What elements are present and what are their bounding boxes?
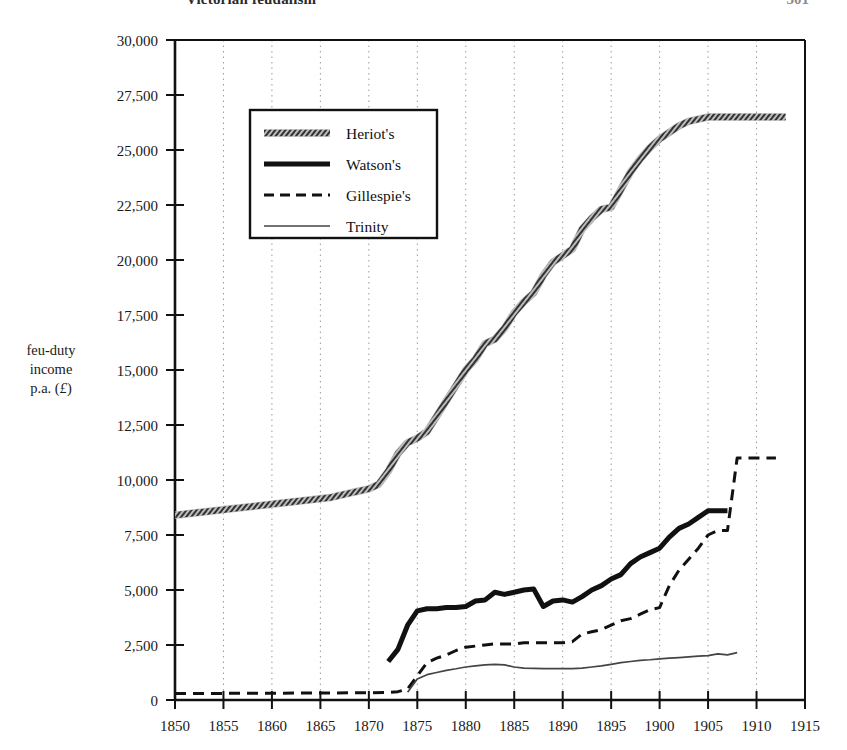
y-tick-label: 22,500 [117, 198, 158, 214]
x-tick-label: 1875 [402, 718, 432, 734]
x-tick-label: 1890 [548, 718, 578, 734]
y-tick-label: 27,500 [117, 88, 158, 104]
y-tick-label: 7,500 [124, 528, 158, 544]
x-tick-label: 1885 [499, 718, 529, 734]
y-tick-label: 2,500 [124, 638, 158, 654]
y-tick-label: 12,500 [117, 418, 158, 434]
legend-label-gillespies: Gillespie's [346, 187, 411, 204]
series-line-trinity [408, 653, 738, 693]
x-tick-label: 1865 [305, 718, 335, 734]
x-tick-label: 1900 [645, 718, 675, 734]
x-axis-ticks: 1850185518601865187018751880188518901895… [160, 691, 820, 734]
y-tick-label: 20,000 [117, 253, 158, 269]
legend-label-heriots: Heriot's [346, 125, 394, 142]
chart-legend: Heriot'sWatson'sGillespie'sTrinity [250, 110, 437, 238]
series-line-gillespies [175, 458, 776, 693]
x-tick-label: 1910 [742, 718, 772, 734]
legend-label-trinity: Trinity [346, 218, 389, 235]
x-tick-label: 1915 [790, 718, 820, 734]
y-tick-label: 10,000 [117, 473, 158, 489]
legend-label-watsons: Watson's [346, 156, 401, 173]
y-tick-label: 0 [151, 693, 159, 709]
x-tick-label: 1855 [208, 718, 238, 734]
y-tick-label: 5,000 [124, 583, 158, 599]
chart-figure: feu-duty income p.a. (£) 02,5005,0007,50… [0, 0, 847, 750]
chart-plot-area: 02,5005,0007,50010,00012,50015,00017,500… [0, 0, 847, 750]
y-tick-label: 30,000 [117, 33, 158, 49]
x-tick-label: 1895 [596, 718, 626, 734]
x-tick-label: 1905 [693, 718, 723, 734]
y-tick-label: 25,000 [117, 143, 158, 159]
x-tick-label: 1880 [451, 718, 481, 734]
series-line-watsons [388, 511, 727, 662]
y-tick-label: 17,500 [117, 308, 158, 324]
x-tick-label: 1870 [354, 718, 384, 734]
y-tick-label: 15,000 [117, 363, 158, 379]
x-tick-label: 1850 [160, 718, 190, 734]
x-tick-label: 1860 [257, 718, 287, 734]
legend-box [250, 110, 437, 238]
